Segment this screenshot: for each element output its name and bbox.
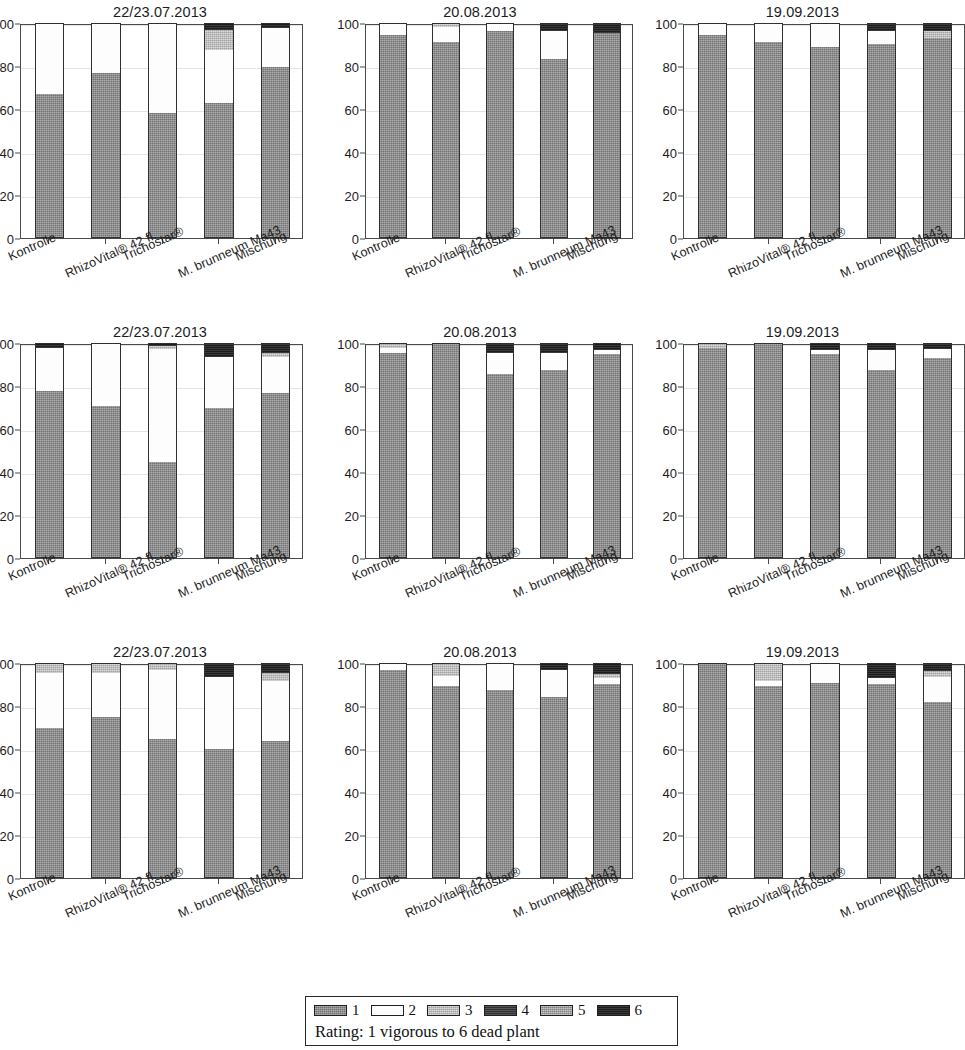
x-axis-tick-label: Kontrolle [669, 550, 721, 583]
x-axis-tick-label: Kontrolle [6, 230, 58, 263]
x-axis-tick-mark [105, 239, 106, 244]
x-axis-tick-mark [218, 559, 219, 564]
x-axis-tick-label: M. brunneum Ma43 [838, 863, 945, 921]
legend-item-5: 5 [540, 1002, 586, 1019]
x-axis-tick-mark [553, 239, 554, 244]
legend-swatch-rating-3 [427, 1005, 460, 1016]
x-axis-tick-label: Kontrolle [6, 870, 58, 903]
x-axis-tick-mark [553, 559, 554, 564]
x-axis-tick-mark [445, 239, 446, 244]
legend-items-row: 123456 [306, 997, 677, 1021]
chart-grid: 22/23.07.2013100806040200KontrolleRhizoV… [0, 0, 965, 985]
legend-caption: Rating: 1 vigorous to 6 dead plant [306, 1021, 677, 1043]
x-axis-tick-mark [553, 879, 554, 884]
chart-panel-row3-col2: 20.08.2013100806040200KontrolleRhizoVita… [320, 640, 640, 960]
x-axis-tick-mark [218, 239, 219, 244]
legend-item-2: 2 [371, 1002, 417, 1019]
legend-swatch-rating-4 [484, 1005, 517, 1016]
legend-item-4: 4 [484, 1002, 530, 1019]
x-axis: KontrolleRhizoVital® 42 fl.Trichostar®M.… [320, 640, 640, 960]
legend-label: 1 [352, 1002, 360, 1019]
x-axis-tick-label: Kontrolle [6, 550, 58, 583]
legend-swatch-rating-5 [540, 1005, 573, 1016]
legend-label: 2 [409, 1002, 417, 1019]
x-axis-tick-mark [218, 879, 219, 884]
legend-swatch-rating-2 [371, 1005, 404, 1016]
legend-item-1: 1 [314, 1002, 360, 1019]
x-axis-tick-mark [768, 879, 769, 884]
x-axis-tick-mark [880, 879, 881, 884]
x-axis: KontrolleRhizoVital® 42 fl.Trichostar®M.… [640, 640, 965, 960]
x-axis-tick-mark [880, 239, 881, 244]
chart-panel-row1-col2: 20.08.2013100806040200KontrolleRhizoVita… [320, 0, 640, 320]
x-axis: KontrolleRhizoVital® 42 fl.Trichostar®M.… [0, 640, 320, 960]
chart-panel-row2-col2: 20.08.2013100806040200KontrolleRhizoVita… [320, 320, 640, 640]
legend-label: 4 [522, 1002, 530, 1019]
legend-label: 3 [465, 1002, 473, 1019]
chart-legend: 123456 Rating: 1 vigorous to 6 dead plan… [305, 996, 678, 1046]
x-axis-tick-label: M. brunneum Ma43 [838, 223, 945, 281]
x-axis-tick-label: M. brunneum Ma43 [838, 543, 945, 601]
x-axis-tick-label: Kontrolle [669, 230, 721, 263]
x-axis: KontrolleRhizoVital® 42 fl.Trichostar®M.… [0, 0, 320, 320]
x-axis: KontrolleRhizoVital® 42 fl.Trichostar®M.… [0, 320, 320, 640]
x-axis: KontrolleRhizoVital® 42 fl.Trichostar®M.… [320, 320, 640, 640]
x-axis-tick-mark [880, 559, 881, 564]
chart-panel-row3-col3: 19.09.2013100806040200KontrolleRhizoVita… [640, 640, 965, 960]
legend-item-3: 3 [427, 1002, 473, 1019]
chart-panel-row1-col1: 22/23.07.2013100806040200KontrolleRhizoV… [0, 0, 320, 320]
x-axis-tick-mark [105, 559, 106, 564]
legend-item-6: 6 [597, 1002, 643, 1019]
x-axis: KontrolleRhizoVital® 42 fl.Trichostar®M.… [320, 0, 640, 320]
legend-swatch-rating-1 [314, 1005, 347, 1016]
legend-swatch-rating-6 [597, 1005, 630, 1016]
x-axis-tick-label: Kontrolle [350, 230, 402, 263]
chart-panel-row3-col1: 22/23.07.2013100806040200KontrolleRhizoV… [0, 640, 320, 960]
x-axis-tick-mark [445, 879, 446, 884]
x-axis: KontrolleRhizoVital® 42 fl.Trichostar®M.… [640, 320, 965, 640]
x-axis-tick-mark [768, 239, 769, 244]
x-axis-tick-label: RhizoVital® 42 fl. [403, 548, 499, 601]
legend-label: 6 [635, 1002, 643, 1019]
x-axis-tick-mark [768, 559, 769, 564]
x-axis-tick-label: Kontrolle [669, 870, 721, 903]
x-axis: KontrolleRhizoVital® 42 fl.Trichostar®M.… [640, 0, 965, 320]
chart-panel-row1-col3: 19.09.2013100806040200KontrolleRhizoVita… [640, 0, 965, 320]
legend-label: 5 [578, 1002, 586, 1019]
x-axis-tick-label: RhizoVital® 42 fl. [403, 868, 499, 921]
x-axis-tick-label: RhizoVital® 42 fl. [403, 228, 499, 281]
x-axis-tick-mark [105, 879, 106, 884]
chart-panel-row2-col3: 19.09.2013100806040200KontrolleRhizoVita… [640, 320, 965, 640]
x-axis-tick-label: M. brunneum Ma43 [176, 543, 283, 601]
x-axis-tick-label: Kontrolle [350, 870, 402, 903]
x-axis-tick-label: Kontrolle [350, 550, 402, 583]
x-axis-tick-mark [445, 559, 446, 564]
x-axis-tick-label: M. brunneum Ma43 [176, 223, 283, 281]
chart-panel-row2-col1: 22/23.07.2013100806040200KontrolleRhizoV… [0, 320, 320, 640]
x-axis-tick-label: M. brunneum Ma43 [176, 863, 283, 921]
